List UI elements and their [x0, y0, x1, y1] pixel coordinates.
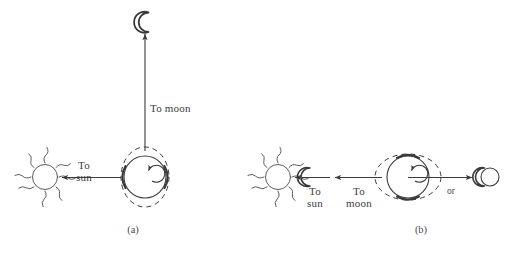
earth-rotation-arrow-a — [149, 165, 165, 182]
moon-disc-outline-b — [481, 168, 499, 186]
moon-crescent-b — [473, 168, 485, 187]
diagram-canvas — [0, 0, 512, 256]
earth-globe-a — [124, 156, 166, 198]
moon-icon-a — [134, 12, 148, 33]
label-to-moon-b-line2: moon — [346, 197, 372, 209]
earth-rotation-arrow-b — [412, 165, 428, 182]
caption-a: (a) — [117, 224, 149, 235]
label-to-sun-b: Tosun — [299, 186, 331, 209]
label-or-b: or — [447, 186, 455, 196]
label-to-sun-a: Tosun — [66, 160, 102, 183]
label-to-moon-b: Tomoon — [339, 186, 379, 209]
caption-b: (b) — [405, 224, 437, 235]
label-to-sun-b-line2: sun — [307, 197, 323, 209]
moon-icon-b-far — [473, 168, 499, 187]
label-to-moon-a: To moon — [150, 102, 210, 114]
tide-diagram-figure: Tosun To moon (a) Tosun Tomoon or (b) — [0, 0, 512, 256]
earth-icon-a — [121, 147, 169, 207]
label-to-sun-a-line2: sun — [76, 171, 92, 183]
label-to-moon-b-line1: To — [353, 185, 365, 197]
label-to-sun-b-line1: To — [309, 185, 321, 197]
label-to-sun-a-line1: To — [78, 159, 90, 171]
